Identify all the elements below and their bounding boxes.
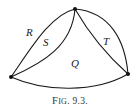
caption-smallcaps: IG (58, 97, 67, 106)
planar-graph-figure: R S T Q FIG. 9.3. (0, 0, 140, 110)
edge-outer-right (75, 9, 128, 74)
region-label-t: T (103, 35, 110, 47)
caption-number: . 9.3. (67, 96, 88, 106)
vertex-right (126, 72, 130, 76)
region-label-q: Q (71, 57, 79, 69)
vertex-top (73, 7, 77, 11)
region-label-r: R (25, 26, 33, 38)
vertex-left (9, 75, 13, 79)
region-label-s: S (43, 36, 49, 48)
figure-caption: FIG. 9.3. (52, 95, 88, 106)
edge-bottom (11, 74, 128, 88)
